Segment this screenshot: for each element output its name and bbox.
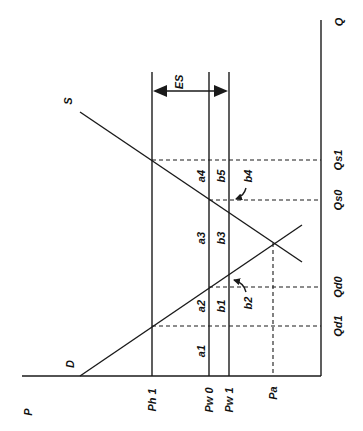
pa-label: Pa (267, 386, 279, 399)
supply-label: S (62, 97, 74, 105)
qd1-label: Qd1 (332, 315, 344, 336)
area-b2-label: b2 (242, 297, 254, 310)
qs1-label: Qs1 (332, 150, 344, 171)
supply-curve (80, 112, 302, 262)
area-a1-label: a1 (195, 345, 207, 357)
qs0-label: Qs0 (332, 189, 344, 211)
pw0-label: Pw 0 (203, 387, 215, 413)
area-b4-label: b4 (242, 170, 254, 183)
es-arrow-head-left-icon (153, 85, 167, 97)
area-a4-label: a4 (195, 170, 207, 182)
demand-curve (80, 225, 302, 376)
demand-label: D (64, 360, 76, 368)
es-label: ES (173, 74, 185, 89)
area-b5-label: b5 (215, 169, 227, 183)
quantity-axis-label: Q (333, 17, 345, 26)
area-b1-label: b1 (215, 300, 227, 313)
price-axis-label: P (22, 408, 34, 416)
qd0-label: Qd0 (332, 275, 344, 297)
b4-pointer-arrow (236, 188, 246, 199)
area-b3-label: b3 (215, 232, 227, 245)
area-a2-label: a2 (195, 300, 207, 312)
b2-pointer-arrow (234, 280, 246, 292)
area-a3-label: a3 (195, 232, 207, 244)
economics-diagram: P Q S D Ph 1 Pw 0 Pw 1 Pa Qs1 Qs0 Qd0 Qd… (0, 0, 363, 431)
ph1-label: Ph 1 (146, 388, 158, 411)
es-arrow-head-right-icon (214, 85, 228, 97)
pw1-label: Pw 1 (223, 387, 235, 412)
